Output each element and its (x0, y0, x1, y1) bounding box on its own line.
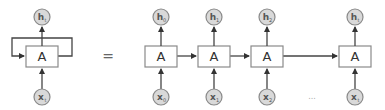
output-node-subscript: t (45, 17, 47, 23)
input-node-subscript: t (45, 97, 47, 103)
cell-label: A (210, 49, 219, 64)
output-node-subscript: 2 (269, 17, 272, 23)
input-node-label: x (38, 92, 44, 102)
output-node-ht: h t (34, 9, 50, 25)
cell-label: A (157, 49, 166, 64)
input-node-subscript: 0 (163, 97, 166, 103)
input-node-subscript: t (358, 97, 360, 103)
cell-label: A (351, 49, 360, 64)
rnn-diagram: A h t x t = A h 0 (0, 0, 385, 110)
rolled-rnn: A h t x t (12, 9, 72, 105)
equals-sign: = (102, 48, 114, 64)
unrolled-cell-1: A h 1 x 1 (198, 9, 230, 105)
unrolled-cell-t: A h t x t (339, 9, 371, 105)
unrolled-cell-0: A h 0 x 0 (145, 9, 177, 105)
cell-label: A (263, 49, 272, 64)
unrolled-rnn: A h 0 x 0 A h 1 x 1 A (145, 9, 371, 105)
unrolled-cell-2: A h 2 x 2 (251, 9, 283, 105)
input-node-subscript: 2 (269, 97, 272, 103)
input-node-xt: x t (34, 89, 50, 105)
rnn-cell-label: A (38, 49, 47, 64)
output-node-label: h (351, 12, 357, 22)
output-node-subscript: t (358, 17, 360, 23)
output-node-label: h (38, 12, 44, 22)
output-node-subscript: 0 (163, 17, 166, 23)
ellipsis: ... (308, 92, 316, 101)
input-node-label: x (351, 92, 357, 102)
input-node-subscript: 1 (216, 97, 219, 103)
output-node-subscript: 1 (216, 17, 219, 23)
